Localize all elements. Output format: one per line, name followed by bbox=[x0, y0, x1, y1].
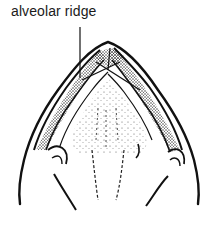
right-cheek-curve bbox=[146, 176, 168, 206]
left-commissure-inner bbox=[52, 156, 62, 164]
figure: alveolar ridge bbox=[0, 0, 215, 226]
right-commissure-inner bbox=[170, 158, 180, 166]
left-commissure bbox=[48, 146, 67, 164]
tongue-line-right bbox=[116, 150, 124, 200]
left-cheek-curve bbox=[54, 174, 76, 210]
jaw-illustration bbox=[0, 0, 215, 226]
tongue-line-left bbox=[92, 150, 98, 200]
